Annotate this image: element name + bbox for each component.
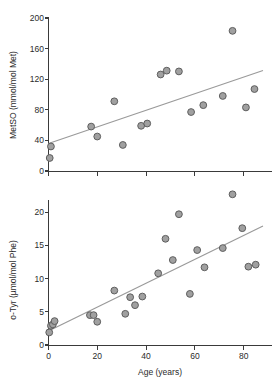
- data-point: [48, 143, 55, 150]
- y-tick-label: 120: [30, 74, 44, 84]
- data-point: [111, 287, 118, 294]
- bottom-panel-trend-line: [49, 226, 264, 331]
- bottom-panel-x-axis-title: Age (years): [138, 367, 182, 377]
- x-tick-label: 0: [46, 351, 51, 361]
- y-tick-label: 160: [30, 44, 44, 54]
- data-point: [169, 257, 176, 264]
- data-point: [157, 71, 164, 78]
- data-point: [94, 133, 101, 140]
- y-tick-label: 10: [35, 274, 45, 284]
- data-point: [162, 235, 169, 242]
- data-point: [229, 191, 236, 198]
- bottom-panel-data-points: [46, 191, 259, 336]
- data-point: [122, 310, 129, 317]
- data-point: [245, 263, 252, 270]
- data-point: [243, 104, 250, 111]
- data-point: [200, 102, 207, 109]
- data-point: [119, 142, 126, 149]
- data-point: [219, 245, 226, 252]
- data-point: [188, 109, 195, 116]
- top-panel-y-axis-title: MetSO (mmol/mol Met): [8, 51, 18, 139]
- bottom-panel-y-axis-title: o-Tyr (µmol/mol Phe): [8, 240, 18, 320]
- x-tick-label: 40: [141, 351, 151, 361]
- data-point: [132, 302, 139, 309]
- y-tick-label: 20: [35, 207, 45, 217]
- data-point: [127, 294, 134, 301]
- data-point: [46, 329, 53, 336]
- data-point: [111, 98, 118, 105]
- top-panel-y-tick-labels: 0 40 80 120 160 200: [30, 13, 44, 176]
- data-point: [176, 68, 183, 75]
- y-tick-label: 0: [39, 340, 44, 350]
- panel-metso-vs-age: MetSO (mmol/mol Met) 0 40 80 120 160 200: [8, 13, 272, 176]
- bottom-panel-y-tick-labels: 0 5 10 15 20: [35, 207, 45, 350]
- y-tick-label: 200: [30, 13, 44, 23]
- y-tick-label: 0: [39, 166, 44, 176]
- y-tick-label: 80: [35, 105, 45, 115]
- data-point: [46, 155, 53, 162]
- data-point: [139, 293, 146, 300]
- data-point: [88, 123, 95, 130]
- data-point: [201, 264, 208, 271]
- y-tick-label: 40: [35, 135, 45, 145]
- top-panel-data-points: [46, 27, 258, 161]
- top-panel-trend-line: [49, 71, 264, 144]
- top-panel-x-ticks: [49, 172, 244, 176]
- y-tick-label: 15: [35, 240, 45, 250]
- data-point: [186, 290, 193, 297]
- data-point: [90, 312, 97, 319]
- y-tick-label: 5: [39, 307, 44, 317]
- data-point: [229, 27, 236, 34]
- data-point: [176, 211, 183, 218]
- x-tick-label: 60: [190, 351, 200, 361]
- data-point: [144, 120, 151, 127]
- data-point: [163, 67, 170, 74]
- data-point: [252, 261, 259, 268]
- data-point: [251, 86, 258, 93]
- x-tick-label: 80: [239, 351, 249, 361]
- data-point: [51, 318, 58, 325]
- data-point: [194, 247, 201, 254]
- scatter-figure: MetSO (mmol/mol Met) 0 40 80 120 160 200: [0, 0, 279, 383]
- bottom-panel-x-ticks: [49, 346, 244, 350]
- data-point: [155, 270, 162, 277]
- panel-otyr-vs-age: o-Tyr (µmol/mol Phe) 0 5 10 15 20: [8, 191, 272, 377]
- x-tick-label: 20: [93, 351, 103, 361]
- figure-container: MetSO (mmol/mol Met) 0 40 80 120 160 200: [0, 0, 279, 383]
- data-point: [239, 225, 246, 232]
- data-point: [94, 318, 101, 325]
- bottom-panel-x-tick-labels: 0 20 40 60 80: [46, 351, 249, 361]
- data-point: [219, 93, 226, 100]
